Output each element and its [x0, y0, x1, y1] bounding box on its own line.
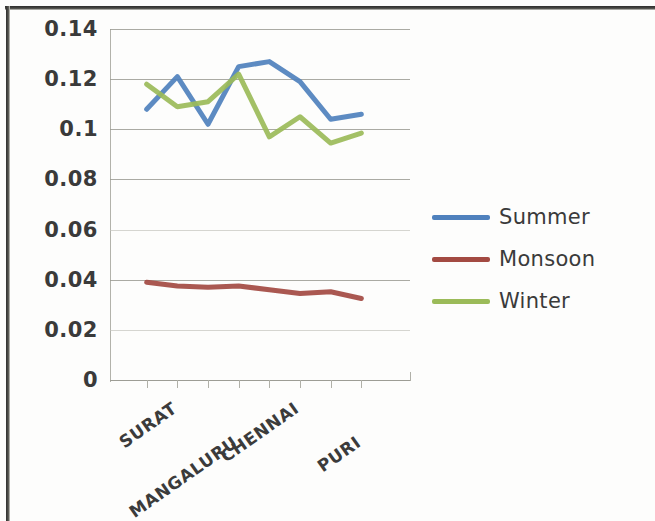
y-axis-tick-label: 0.02 — [12, 318, 98, 342]
legend-item: Summer — [432, 196, 647, 238]
legend-color-swatch — [432, 257, 490, 262]
series-line-monsoon — [147, 282, 362, 298]
legend-label: Winter — [499, 289, 570, 313]
chart-legend: SummerMonsoonWinter — [432, 196, 647, 322]
y-axis-tick-label: 0.1 — [12, 117, 98, 141]
series-line-winter — [147, 74, 362, 143]
legend-label: Monsoon — [499, 247, 595, 271]
y-axis-tick-label: 0.08 — [12, 167, 98, 191]
legend-item: Winter — [432, 280, 647, 322]
legend-color-swatch — [432, 215, 490, 220]
legend-item: Monsoon — [432, 238, 647, 280]
plot-area — [110, 29, 410, 380]
legend-label: Summer — [499, 205, 590, 229]
y-axis-tick-label: 0.14 — [12, 17, 98, 41]
y-axis-tick-label: 0.04 — [12, 268, 98, 292]
series-lines — [110, 29, 410, 380]
scanned-page: 0.140.120.10.080.060.040.020 SURATMANGAL… — [0, 0, 655, 521]
line-chart: 0.140.120.10.080.060.040.020 SURATMANGAL… — [0, 0, 655, 521]
y-axis-tick-label: 0.06 — [12, 218, 98, 242]
legend-color-swatch — [432, 299, 490, 304]
y-axis-tick-label: 0.12 — [12, 67, 98, 91]
x-axis-category-labels: SURATMANGALURUCHENNAIPURI — [0, 380, 655, 521]
series-line-summer — [147, 62, 362, 125]
